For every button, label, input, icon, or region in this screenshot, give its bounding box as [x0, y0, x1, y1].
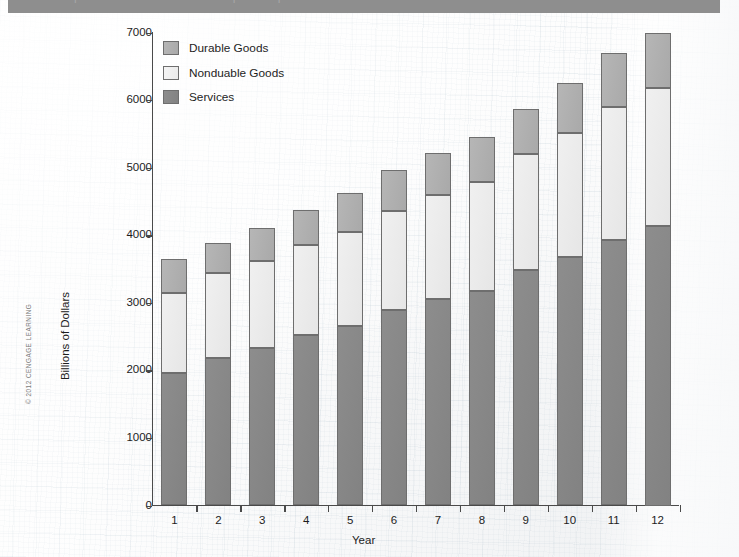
- y-tick-label: 7000: [106, 26, 152, 38]
- stacked-bar-year-6[interactable]: [381, 170, 407, 506]
- legend-swatch-services: [163, 90, 179, 104]
- bar-segment-services[interactable]: [557, 257, 583, 506]
- x-tick-mark: [680, 505, 681, 512]
- bar-segment-nondurable[interactable]: [645, 88, 671, 227]
- x-tick-label-5: 5: [333, 514, 367, 526]
- bar-segment-services[interactable]: [381, 310, 407, 505]
- x-tick-mark: [372, 505, 373, 512]
- x-tick-mark: [196, 505, 197, 512]
- bar-segment-durable[interactable]: [645, 33, 671, 88]
- legend-swatch-nondurable: [163, 66, 179, 80]
- bar-segment-services[interactable]: [513, 270, 539, 505]
- bar-segment-durable[interactable]: [469, 137, 495, 182]
- bar-segment-nondurable[interactable]: [557, 133, 583, 257]
- legend-item-nondurable: Nonduable Goods: [163, 63, 284, 83]
- y-tick-label: 5000: [106, 161, 152, 173]
- bar-segment-services[interactable]: [249, 348, 275, 505]
- bar-segment-services[interactable]: [161, 373, 187, 505]
- bar-segment-services[interactable]: [205, 358, 231, 506]
- x-tick-mark: [416, 505, 417, 512]
- stacked-bar-year-8[interactable]: [469, 137, 495, 505]
- y-tick-row-4000: 4000: [92, 235, 152, 236]
- bar-segment-nondurable[interactable]: [469, 182, 495, 291]
- stacked-bar-year-12[interactable]: [645, 33, 671, 506]
- legend-item-durable: Durable Goods: [163, 38, 284, 58]
- y-tick-label: 2000: [106, 363, 152, 375]
- chart-legend: Durable GoodsNonduable GoodsServices: [163, 38, 284, 112]
- stacked-bar-year-9[interactable]: [513, 109, 539, 506]
- y-tick-mark: [146, 303, 152, 304]
- x-tick-label-8: 8: [465, 514, 499, 526]
- bar-segment-nondurable[interactable]: [249, 261, 275, 348]
- x-tick-label-12: 12: [641, 514, 675, 526]
- x-tick-label-9: 9: [509, 514, 543, 526]
- bar-segment-nondurable[interactable]: [601, 107, 627, 240]
- legend-swatch-durable: [163, 41, 179, 55]
- stacked-bar-year-1[interactable]: [161, 259, 187, 506]
- y-tick-row-6000: 6000: [92, 100, 152, 101]
- y-tick-label: 0: [106, 499, 152, 511]
- x-tick-label-1: 1: [157, 514, 191, 526]
- bar-segment-services[interactable]: [645, 226, 671, 505]
- y-tick-label: 3000: [106, 296, 152, 308]
- bar-segment-durable[interactable]: [557, 83, 583, 134]
- y-tick-mark: [146, 100, 152, 101]
- y-tick-row-1000: 1000: [92, 438, 152, 439]
- y-tick-mark: [146, 438, 152, 439]
- y-tick-mark: [146, 506, 152, 507]
- legend-label: Services: [189, 90, 234, 104]
- legend-label: Durable Goods: [189, 41, 268, 55]
- x-tick-mark: [460, 505, 461, 512]
- bar-segment-nondurable[interactable]: [337, 232, 363, 326]
- x-tick-label-7: 7: [421, 514, 455, 526]
- bar-segment-nondurable[interactable]: [205, 273, 231, 357]
- bar-segment-durable[interactable]: [513, 109, 539, 154]
- bar-segment-durable[interactable]: [293, 210, 319, 246]
- bar-segment-services[interactable]: [337, 326, 363, 506]
- x-tick-mark: [284, 505, 285, 512]
- bar-segment-nondurable[interactable]: [513, 154, 539, 270]
- x-tick-mark: [548, 505, 549, 512]
- chart-plot-area: Billions of Dollars Year 010002000300040…: [0, 0, 739, 557]
- y-tick-mark: [146, 370, 152, 371]
- bar-segment-nondurable[interactable]: [293, 245, 319, 335]
- y-tick-row-3000: 3000: [92, 303, 152, 304]
- y-axis-line: [152, 32, 153, 506]
- bar-segment-durable[interactable]: [337, 193, 363, 232]
- stacked-bar-year-2[interactable]: [205, 243, 231, 506]
- stacked-bar-year-3[interactable]: [249, 228, 275, 505]
- bar-segment-nondurable[interactable]: [425, 195, 451, 298]
- x-tick-label-2: 2: [201, 514, 235, 526]
- legend-label: Nonduable Goods: [189, 66, 284, 80]
- bar-segment-durable[interactable]: [205, 243, 231, 273]
- x-tick-label-11: 11: [597, 514, 631, 526]
- stacked-bar-year-10[interactable]: [557, 83, 583, 506]
- bar-segment-durable[interactable]: [601, 53, 627, 107]
- bar-segment-nondurable[interactable]: [161, 293, 187, 373]
- stacked-bar-year-7[interactable]: [425, 153, 451, 506]
- bar-segment-durable[interactable]: [161, 259, 187, 293]
- bar-segment-nondurable[interactable]: [381, 211, 407, 310]
- y-tick-row-2000: 2000: [92, 370, 152, 371]
- bar-segment-services[interactable]: [469, 291, 495, 505]
- stacked-bar-year-11[interactable]: [601, 53, 627, 506]
- legend-item-services: Services: [163, 87, 284, 107]
- stacked-bar-year-5[interactable]: [337, 193, 363, 506]
- x-tick-mark: [504, 505, 505, 512]
- x-tick-mark: [592, 505, 593, 512]
- x-tick-label-4: 4: [289, 514, 323, 526]
- x-tick-label-10: 10: [553, 514, 587, 526]
- y-tick-label: 6000: [106, 93, 152, 105]
- y-tick-mark: [146, 33, 152, 34]
- y-tick-label: 4000: [106, 228, 152, 240]
- x-axis-title: Year: [352, 534, 375, 546]
- bar-segment-services[interactable]: [601, 240, 627, 506]
- bar-segment-durable[interactable]: [425, 153, 451, 196]
- stacked-bar-year-4[interactable]: [293, 210, 319, 506]
- y-tick-mark: [146, 168, 152, 169]
- bar-segment-durable[interactable]: [249, 228, 275, 260]
- bar-segment-durable[interactable]: [381, 170, 407, 211]
- bar-segment-services[interactable]: [293, 335, 319, 505]
- bar-segment-services[interactable]: [425, 299, 451, 506]
- x-tick-label-3: 3: [245, 514, 279, 526]
